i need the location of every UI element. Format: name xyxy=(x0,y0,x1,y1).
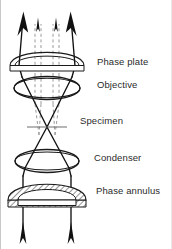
phase-contrast-diagram: Phase plate Objective Specimen Condenser… xyxy=(0,0,172,249)
phase-annulus-component xyxy=(8,184,86,207)
phase-plate-component xyxy=(10,52,84,71)
label-objective: Objective xyxy=(97,79,138,90)
label-specimen: Specimen xyxy=(80,115,123,126)
objective-lens-component xyxy=(14,77,80,100)
bottom-arrowheads xyxy=(20,222,75,244)
label-phase-annulus: Phase annulus xyxy=(96,185,160,196)
label-condenser: Condenser xyxy=(94,152,141,163)
condenser-lens-component xyxy=(15,150,79,173)
large-arrowheads-diffracted xyxy=(17,12,76,37)
ray-group-undiffracted xyxy=(35,24,59,135)
small-arrowheads-undiffracted xyxy=(36,18,58,33)
label-phase-plate: Phase plate xyxy=(97,56,148,67)
